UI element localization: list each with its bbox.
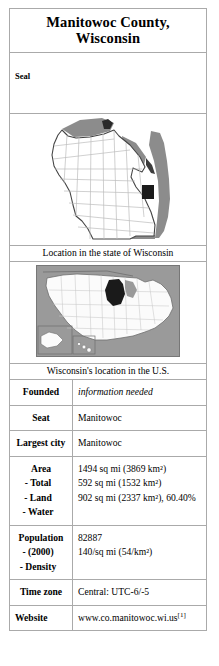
infobox-us-map-caption-row: Wisconsin's location in the U.S. [10,363,206,379]
infobox-title-row: Manitowoc County, Wisconsin [10,9,206,52]
label-website: Website [10,606,73,631]
page-title: Manitowoc County, Wisconsin [10,9,206,52]
wisconsin-location-map [18,117,198,243]
infobox-state-map-caption-row: Location in the state of Wisconsin [10,245,206,261]
label-population-year: - (2000) [11,545,71,560]
infobox-row-population: Population - (2000) - Density 82887 140/… [10,525,206,580]
reference-marker[interactable]: [1] [178,610,186,618]
label-population: Population - (2000) - Density [10,526,73,580]
label-time-zone: Time zone [10,580,73,605]
infobox-row-website: Website www.co.manitowoc.wi.us[1] [10,605,206,631]
label-area: Area - Total - Land - Water [10,457,73,525]
value-area-land: 592 sq mi (1532 km²) [78,476,204,491]
infobox-row-timezone: Time zone Central: UTC-6/-5 [10,579,206,605]
title-line-2: Wisconsin [76,30,140,46]
infobox-row-seat: Seat Manitowoc [10,405,206,431]
value-founded: information needed [73,380,206,405]
us-map-frame [36,265,180,357]
label-seat: Seat [10,406,73,431]
state-map-container [10,114,206,245]
state-map-caption: Location in the state of Wisconsin [10,246,206,261]
value-area: 1494 sq mi (3869 km²) 592 sq mi (1532 km… [73,457,206,525]
label-area-total: - Total [11,476,71,491]
county-infobox: Manitowoc County, Wisconsin Seal [9,8,207,631]
value-seat: Manitowoc [73,406,206,431]
infobox-seal-row: Seal [10,52,206,113]
us-map-caption: Wisconsin's location in the U.S. [10,364,206,379]
value-area-total: 1494 sq mi (3869 km²) [78,462,204,477]
value-time-zone: Central: UTC-6/-5 [73,580,206,605]
value-area-water: 902 sq mi (2337 km²), 60.40% [78,491,204,506]
label-largest-city: Largest city [10,431,73,456]
us-location-map [37,266,179,356]
infobox-row-founded: Founded information needed [10,379,206,405]
us-map-container [10,262,206,363]
value-population-count: 82887 [78,531,204,546]
label-founded: Founded [10,380,73,405]
seal-label: Seal [10,53,206,113]
value-largest-city: Manitowoc [73,431,206,456]
label-area-main: Area [31,463,51,474]
title-line-1: Manitowoc County, [46,14,169,30]
value-website: www.co.manitowoc.wi.us[1] [73,606,206,631]
label-area-water: - Water [11,505,71,520]
website-url-link[interactable]: www.co.manitowoc.wi.us [78,612,178,623]
infobox-us-map-row [10,261,206,363]
label-population-density: - Density [11,560,71,575]
infobox-row-largest-city: Largest city Manitowoc [10,430,206,456]
infobox-row-area: Area - Total - Land - Water 1494 sq mi (… [10,456,206,525]
value-population: 82887 140/sq mi (54/km²) [73,526,206,580]
value-population-density: 140/sq mi (54/km²) [78,545,204,560]
infobox-state-map-row [10,113,206,245]
label-area-land: - Land [11,491,71,506]
label-population-main: Population [19,532,64,543]
